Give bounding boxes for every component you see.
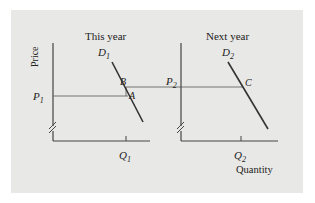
d1-label: D1 <box>97 46 110 61</box>
right-title: Next year <box>206 30 249 42</box>
q1-label: Q1 <box>119 149 131 164</box>
p2-label: P2 <box>165 75 177 90</box>
point-a-label: A <box>128 90 136 101</box>
right-chart: Next year D2 P2 C Q2 Quantity <box>165 30 278 175</box>
p1-label: P1 <box>32 90 44 105</box>
d2-label: D2 <box>221 46 234 61</box>
price-axis-label: Price <box>29 46 40 67</box>
left-title: This year <box>85 30 127 42</box>
q2-label: Q2 <box>234 149 246 164</box>
demand-curve-d2 <box>228 62 268 129</box>
point-c-label: C <box>245 77 252 88</box>
supply-demand-diagram: This year Price D1 P1 Q1 B A Next year D… <box>0 0 315 203</box>
point-b-label: B <box>120 76 126 87</box>
demand-curve-d1 <box>112 62 143 122</box>
quantity-axis-label: Quantity <box>236 164 273 175</box>
left-chart: This year Price D1 P1 Q1 B A <box>29 30 150 164</box>
